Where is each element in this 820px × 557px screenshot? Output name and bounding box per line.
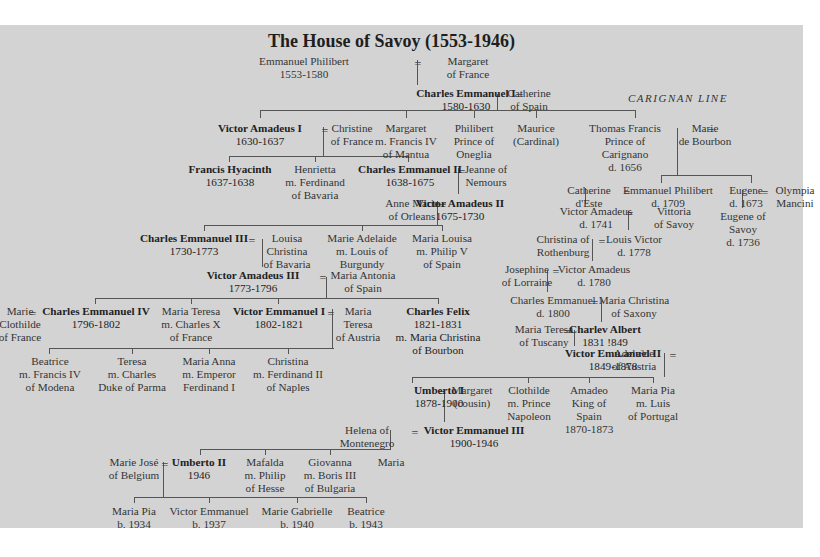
person-eugene-1673: Eugened. 1673 (729, 184, 763, 210)
connector-line (49, 348, 50, 354)
person-name: Victor Emmanuel (169, 505, 248, 518)
person-detail: Mancini (775, 197, 814, 210)
person-name: Victor Emmanuel III (424, 424, 525, 437)
person-josephine-lorraine: Josephineof Lorraine (502, 263, 553, 289)
person-name: Victor Amadeus (558, 263, 630, 276)
person-name: Maurice (513, 122, 559, 135)
person-christine-of-france: Christineof France (331, 122, 374, 148)
person-detail: Oneglia (454, 148, 495, 161)
person-name: Maria Teresa (515, 323, 573, 336)
person-name: Umberto II (172, 456, 226, 469)
person-detail: Teresa (336, 318, 380, 331)
person-detail: of Modena (19, 381, 81, 394)
person-maria-antonia: Maria Antoniaof Spain (331, 269, 396, 295)
marriage-sign: = (162, 459, 169, 471)
person-detail: b. 1934 (112, 518, 156, 531)
connector-line (406, 110, 407, 118)
person-charles-albert: Charlev Albert1831 !849 (569, 323, 641, 349)
person-detail: 1946 (172, 469, 226, 482)
person-maria-teresa-austria: MariaTeresaof Austria (336, 305, 380, 344)
person-name: Vittoria (654, 205, 694, 218)
person-name: Marie (0, 305, 41, 318)
person-detail: of Spain (331, 282, 396, 295)
person-detail: Prince of (589, 135, 661, 148)
connector-line (315, 156, 316, 162)
person-christina-rothenburg: Christina ofRothenburg (536, 233, 589, 259)
person-detail: of France (161, 331, 220, 344)
connector-line (661, 175, 751, 176)
person-detail: d. 1741 (560, 218, 632, 231)
person-detail: b. 1943 (347, 518, 384, 531)
connector-line (661, 175, 662, 183)
person-charles-emmanuel-iv: Charles Emmanuel IV1796-1802 (42, 305, 150, 331)
person-name: Marie José (109, 456, 160, 469)
connector-line (209, 497, 210, 503)
person-detail: 1802-1821 (233, 318, 325, 331)
connector-line (229, 156, 230, 162)
person-detail: Ferdinand I (182, 381, 235, 394)
connector-line (412, 377, 653, 378)
person-name: Charles Emmanuel III (140, 232, 248, 245)
person-maria-christina-saxony: Maria Christinaof Saxony (599, 294, 670, 320)
person-victor-amadeus-carignan: Victor Amadeusd. 1741 (560, 205, 632, 231)
person-victor-amadeus-ii: Victor Amadeus II1675-1730 (416, 197, 504, 223)
person-name: Adela²de (612, 347, 656, 360)
person-detail: of Spain (412, 258, 472, 271)
person-marie-clothilde: MarieClothildeof France (0, 305, 41, 344)
person-name: Victor Amadeus (560, 205, 632, 218)
person-detail: of Savoy (654, 218, 694, 231)
person-name: Teresa (98, 355, 166, 368)
person-detail: of Spain (507, 100, 551, 113)
person-victor-emmanuel-i: Victor Emmanuel I1802-1821 (233, 305, 325, 331)
person-charles-emmanuel-i: Charles Emmanuel I1580-1630 (416, 87, 515, 113)
person-detail: 1796-1802 (42, 318, 150, 331)
person-name: Margaret (452, 384, 493, 397)
connector-line (366, 497, 367, 503)
person-name: Margaret (375, 122, 437, 135)
person-detail: m. Charles (98, 368, 166, 381)
person-margaret-of-france: Margaretof France (447, 55, 490, 81)
person-detail: m. Boris III (304, 469, 357, 482)
person-detail: Spain (565, 410, 613, 423)
person-marie-de-bourbon: Mariede Bourbon (679, 122, 732, 148)
person-detail: d. 1778 (606, 246, 662, 259)
person-teresa-parma: Teresam. CharlesDuke of Parma (98, 355, 166, 394)
person-detail: 1637-1638 (189, 176, 272, 189)
person-name: Victor Amadeus III (207, 269, 300, 282)
connector-line (134, 497, 367, 498)
person-name: Emmanuel Philibert (259, 55, 349, 68)
person-detail: of Austria (612, 360, 656, 373)
person-margaret-cousin: Margaret(cousin) (452, 384, 493, 410)
person-name: Charles Emmanuel I (416, 87, 515, 100)
person-name: Helena of (340, 424, 395, 437)
connector-line (442, 225, 443, 231)
person-name: Margaret (447, 55, 490, 68)
person-name: Marie Adelaide (327, 232, 396, 245)
person-detail: of Bavaria (285, 189, 345, 202)
person-detail: of Belgium (109, 469, 160, 482)
person-helena-montenegro: Helena ofMontenegro (340, 424, 395, 450)
person-detail: m. Francis IV (375, 135, 437, 148)
person-maria-teresa-charles-x: Maria Teresam. Charles Xof France (161, 305, 220, 344)
person-name: Emmanuel Philibert (623, 184, 713, 197)
person-detail: b. 1937 (169, 518, 248, 531)
person-victor-amadeus-1780: Victor Amadeusd. 1780 (558, 263, 630, 289)
marriage-sign: = (328, 308, 335, 320)
person-detail: m. Philip V (412, 245, 472, 258)
person-christina-naples: Christinam. Ferdinand IIof Naples (253, 355, 323, 394)
connector-line (204, 225, 205, 231)
person-mafalda: Mafaldam. Philipof Hesse (244, 456, 285, 495)
person-name: Beatrice (347, 505, 384, 518)
person-eugene-of-savoy: Eugene ofSavoyd. 1736 (720, 210, 766, 249)
person-detail: m. Philip (244, 469, 285, 482)
person-detail: m. Charles X (161, 318, 220, 331)
person-detail: of Portugal (628, 410, 678, 423)
person-margaret-mantua: Margaretm. Francis IVof Mantua (375, 122, 437, 161)
person-maria-louisa: Maria Louisam. Philip Vof Spain (412, 232, 472, 271)
person-umberto-ii: Umberto II1946 (172, 456, 226, 482)
person-victor-emmanuel-1937: Victor Emmanuelb. 1937 (169, 505, 248, 531)
person-detail: of France (0, 331, 41, 344)
person-louis-victor: Louis Victord. 1778 (606, 233, 662, 259)
person-henrietta: Henriettam. Ferdinandof Bavaria (285, 163, 345, 202)
connector-line (653, 377, 654, 383)
